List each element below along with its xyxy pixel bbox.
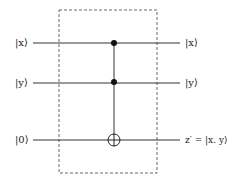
output-label-z: z′ = |x. y⟩ — [185, 134, 227, 146]
output-label-y: |y⟩ — [185, 77, 198, 89]
input-label-x: |x⟩ — [15, 37, 28, 49]
xor-target-icon — [108, 134, 120, 146]
input-label-y: |y⟩ — [15, 77, 28, 89]
gate-boundary-box — [59, 10, 157, 173]
output-label-x: |x⟩ — [185, 37, 198, 49]
circuit-canvas — [0, 0, 243, 184]
input-label-zero: |0⟩ — [15, 134, 29, 146]
control-dot-y-icon — [111, 79, 117, 85]
control-dot-x-icon — [111, 40, 117, 46]
